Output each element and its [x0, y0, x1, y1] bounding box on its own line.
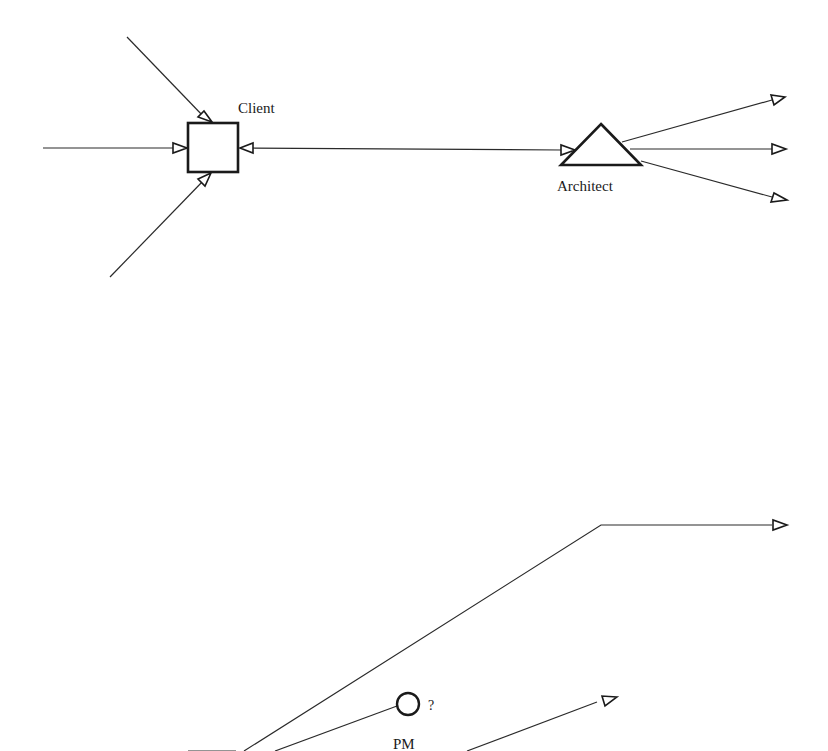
client-group: Client — [43, 37, 275, 277]
edge-bottom-right-rise — [467, 702, 597, 751]
edge-architect-out-lower — [641, 161, 772, 197]
arrowhead-icon — [773, 520, 787, 530]
client-node — [188, 123, 238, 172]
pm-annotation: ? — [428, 698, 434, 713]
architect-label: Architect — [557, 178, 614, 194]
arrowhead-icon — [602, 696, 617, 706]
architect-group: Architect — [557, 95, 787, 202]
edge-upper-left-to-client — [127, 37, 205, 118]
arrowhead-icon — [771, 193, 787, 202]
arrowhead-icon — [771, 95, 785, 105]
edge-long-rise — [244, 525, 772, 751]
arrowhead-icon — [173, 143, 187, 153]
pm-label: PM — [393, 736, 415, 751]
arrowhead-icon — [240, 143, 253, 153]
edge-lower-left-to-client — [110, 180, 204, 277]
arrowhead-icon — [772, 144, 786, 154]
organization-diagram: Client Architect ? PM — [0, 0, 828, 751]
bottom-group: ? PM — [188, 520, 787, 751]
client-architect-edge — [240, 143, 575, 155]
edge-client-architect — [250, 148, 562, 150]
client-label: Client — [238, 100, 275, 116]
architect-node — [561, 124, 641, 165]
edge-architect-out-upper — [622, 100, 772, 142]
pm-node — [397, 693, 419, 715]
edge-to-pm — [275, 706, 397, 751]
